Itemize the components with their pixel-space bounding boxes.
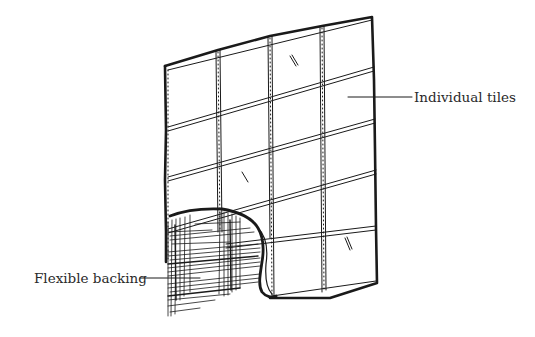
backing-mesh — [168, 212, 260, 316]
sheet-outline — [165, 17, 377, 298]
sheet-left-edge — [165, 66, 166, 262]
glint-marks — [242, 55, 352, 250]
peel-edge — [170, 209, 276, 297]
grout-dots — [168, 28, 324, 296]
tile-sheet-drawing — [0, 0, 535, 337]
tile-sheet-diagram: Individual tiles Flexible backing — [0, 0, 535, 337]
flexible-backing-label: Flexible backing — [34, 272, 147, 286]
individual-tiles-label: Individual tiles — [414, 91, 516, 105]
